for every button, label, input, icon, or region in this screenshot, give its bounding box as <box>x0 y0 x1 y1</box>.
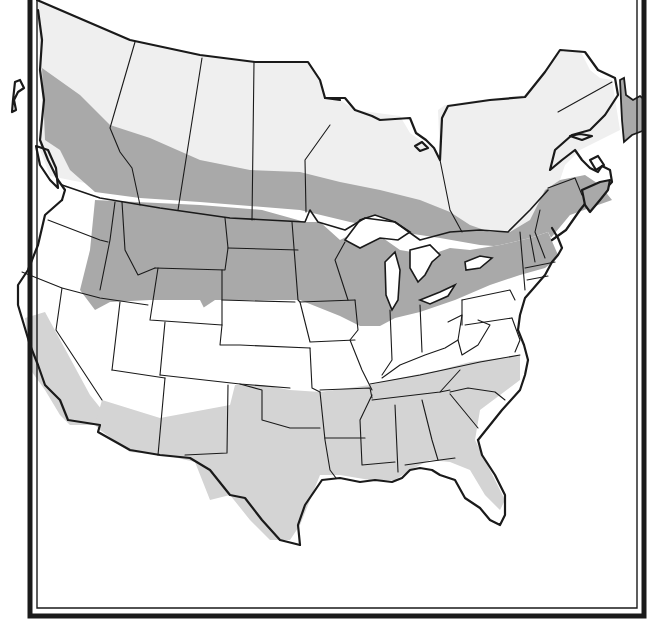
range-map <box>0 0 649 620</box>
